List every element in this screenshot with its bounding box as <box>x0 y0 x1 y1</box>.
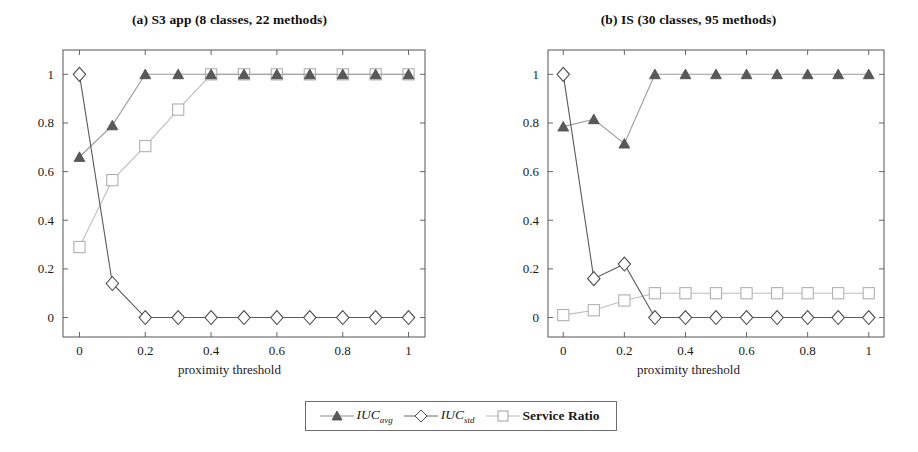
svg-text:0: 0 <box>76 343 83 358</box>
legend-entry-iuc-avg: IUCavg <box>316 407 400 425</box>
svg-text:0: 0 <box>533 310 540 325</box>
svg-text:0.6: 0.6 <box>38 164 55 179</box>
svg-text:1: 1 <box>865 343 872 358</box>
chart-panel-b: (b) IS (30 classes, 95 methods) 00.20.40… <box>459 0 918 400</box>
panel-a-plot: 00.20.40.60.8100.20.40.60.81 <box>0 0 459 400</box>
svg-text:0.8: 0.8 <box>335 343 351 358</box>
chart-legend: IUCavg IUCstd Service Ratio <box>305 401 617 431</box>
filled-triangle-marker-icon <box>320 408 354 424</box>
svg-text:0.2: 0.2 <box>523 261 539 276</box>
svg-text:0.2: 0.2 <box>38 261 54 276</box>
svg-text:0.4: 0.4 <box>203 343 220 358</box>
svg-text:0.6: 0.6 <box>738 343 755 358</box>
legend-label-service-ratio: Service Ratio <box>520 408 603 424</box>
legend-entry-iuc-std: IUCstd <box>400 407 482 425</box>
panel-b-xaxis-label: proximity threshold <box>459 362 918 378</box>
open-square-marker-icon <box>486 408 520 424</box>
open-diamond-marker-icon <box>404 408 438 424</box>
figure-root: (a) S3 app (8 classes, 22 methods) 00.20… <box>0 0 918 452</box>
legend-label-iuc-avg: IUCavg <box>354 407 396 425</box>
panel-b-plot: 00.20.40.60.8100.20.40.60.81 <box>459 0 918 400</box>
panel-a-xaxis-label: proximity threshold <box>0 362 459 378</box>
svg-text:1: 1 <box>405 343 412 358</box>
svg-text:0.8: 0.8 <box>800 343 816 358</box>
svg-text:0.4: 0.4 <box>677 343 694 358</box>
svg-text:0.4: 0.4 <box>38 213 55 228</box>
legend-label-iuc-std: IUCstd <box>438 407 478 425</box>
svg-text:0.2: 0.2 <box>137 343 153 358</box>
legend-entry-service-ratio: Service Ratio <box>482 408 607 424</box>
svg-text:1: 1 <box>533 67 540 82</box>
svg-text:0: 0 <box>560 343 567 358</box>
svg-text:0.6: 0.6 <box>523 164 540 179</box>
svg-text:0.2: 0.2 <box>616 343 632 358</box>
svg-text:1: 1 <box>48 67 55 82</box>
svg-text:0: 0 <box>48 310 55 325</box>
svg-text:0.8: 0.8 <box>38 115 54 130</box>
panel-a-svg: 00.20.40.60.8100.20.40.60.81 <box>0 0 459 400</box>
svg-text:0.8: 0.8 <box>523 115 539 130</box>
chart-panel-a: (a) S3 app (8 classes, 22 methods) 00.20… <box>0 0 459 400</box>
svg-text:0.6: 0.6 <box>269 343 286 358</box>
panel-b-svg: 00.20.40.60.8100.20.40.60.81 <box>459 0 918 400</box>
svg-text:0.4: 0.4 <box>523 213 540 228</box>
